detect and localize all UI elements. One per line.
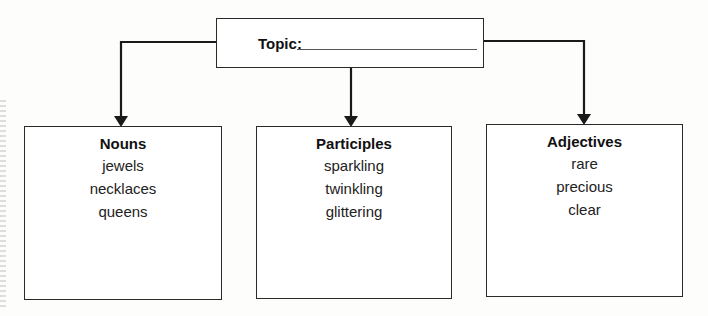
- topic-label: Topic:: [258, 35, 302, 52]
- participles-box: Participles sparkling twinkling glitteri…: [256, 126, 452, 299]
- list-item: jewels: [25, 154, 221, 177]
- adjectives-box: Adjectives rare precious clear: [486, 124, 683, 297]
- category-title: Participles: [257, 134, 451, 154]
- list-item: twinkling: [257, 177, 451, 200]
- category-title: Nouns: [25, 134, 221, 154]
- list-item: glittering: [257, 200, 451, 223]
- list-item: sparkling: [257, 154, 451, 177]
- nouns-box: Nouns jewels necklaces queens: [24, 126, 222, 300]
- category-title: Adjectives: [487, 132, 682, 152]
- list-item: queens: [25, 200, 221, 223]
- topic-blank-line[interactable]: [297, 49, 477, 50]
- topic-box: Topic:: [216, 18, 484, 68]
- list-item: precious: [487, 175, 682, 198]
- list-item: necklaces: [25, 177, 221, 200]
- list-item: clear: [487, 198, 682, 221]
- list-item: rare: [487, 152, 682, 175]
